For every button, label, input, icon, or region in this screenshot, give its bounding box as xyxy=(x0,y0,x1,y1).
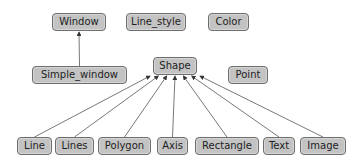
edge-simple-window-to-window xyxy=(79,32,80,66)
node-line: Line xyxy=(17,137,52,155)
node-point: Point xyxy=(228,66,268,84)
node-axis: Axis xyxy=(157,137,188,155)
node-rectangle: Rectangle xyxy=(195,137,259,155)
node-image: Image xyxy=(300,137,346,155)
node-color: Color xyxy=(208,13,249,31)
node-lines: Lines xyxy=(55,137,94,155)
node-simple-window: Simple_window xyxy=(32,66,127,84)
node-polygon: Polygon xyxy=(98,137,151,155)
node-window: Window xyxy=(52,13,106,31)
node-line-style: Line_style xyxy=(126,13,186,31)
edge-axis-to-shape xyxy=(173,76,176,137)
node-shape: Shape xyxy=(153,57,197,75)
edge-line-to-shape xyxy=(35,76,151,137)
node-text: Text xyxy=(263,137,295,155)
edge-image-to-shape xyxy=(200,76,323,137)
